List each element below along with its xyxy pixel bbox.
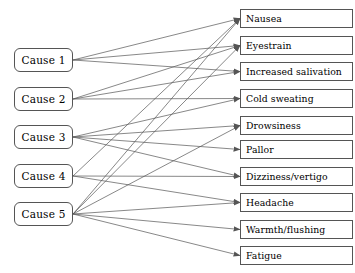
effect-node-e2[interactable]: Eyestrain	[240, 36, 353, 55]
edge-c1-to-e1	[73, 19, 240, 61]
cause-node-c4[interactable]: Cause 4	[14, 164, 73, 188]
effect-node-e10[interactable]: Fatigue	[240, 246, 353, 265]
edge-group	[73, 19, 240, 256]
node-label: Warmth/flushing	[246, 225, 325, 234]
node-label: Drowsiness	[246, 121, 301, 130]
node-label: Cause 2	[21, 94, 65, 105]
edge-c3-to-e4	[73, 99, 240, 138]
node-label: Increased salivation	[246, 67, 342, 76]
effect-node-e6[interactable]: Pallor	[240, 140, 353, 159]
effect-node-e9[interactable]: Warmth/flushing	[240, 220, 353, 239]
node-label: Cause 3	[21, 132, 65, 143]
edge-c5-to-e8	[73, 203, 240, 215]
node-label: Cause 5	[21, 209, 65, 220]
edge-c4-to-e7	[73, 176, 240, 177]
effect-node-e1[interactable]: Nausea	[240, 9, 353, 28]
edge-c1-to-e3	[73, 60, 240, 72]
effect-node-e5[interactable]: Drowsiness	[240, 116, 353, 135]
node-label: Fatigue	[246, 251, 282, 260]
node-label: Cause 4	[21, 171, 65, 182]
edge-c2-to-e4	[73, 99, 240, 100]
edge-c5-to-e9	[73, 214, 240, 230]
edge-c5-to-e5	[73, 126, 240, 215]
edge-c5-to-e10	[73, 214, 240, 256]
edge-c3-to-e6	[73, 137, 240, 150]
edge-c3-to-e7	[73, 137, 240, 177]
effect-node-e8[interactable]: Headache	[240, 193, 353, 212]
cause-effect-diagram: Cause 1Cause 2Cause 3Cause 4Cause 5 Naus…	[0, 0, 355, 273]
edge-c4-to-e8	[73, 176, 240, 203]
cause-node-c5[interactable]: Cause 5	[14, 202, 73, 226]
edge-c2-to-e2	[73, 46, 240, 100]
effect-node-e4[interactable]: Cold sweating	[240, 89, 353, 108]
node-label: Nausea	[246, 14, 282, 23]
edge-c3-to-e5	[73, 126, 240, 138]
edge-c5-to-e1	[73, 19, 240, 215]
cause-node-c3[interactable]: Cause 3	[14, 125, 73, 149]
edge-c5-to-e2	[73, 46, 240, 215]
node-label: Cold sweating	[246, 94, 314, 103]
cause-node-c2[interactable]: Cause 2	[14, 87, 73, 111]
node-label: Pallor	[246, 145, 274, 154]
node-label: Dizziness/vertigo	[246, 172, 328, 181]
effect-node-e7[interactable]: Dizziness/vertigo	[240, 167, 353, 186]
node-label: Headache	[246, 198, 294, 207]
node-label: Eyestrain	[246, 41, 291, 50]
cause-node-c1[interactable]: Cause 1	[14, 48, 73, 72]
effect-node-e3[interactable]: Increased salivation	[240, 62, 353, 81]
edge-c4-to-e1	[73, 19, 240, 177]
edge-c1-to-e2	[73, 46, 240, 61]
node-label: Cause 1	[21, 55, 65, 66]
edge-c2-to-e3	[73, 72, 240, 100]
